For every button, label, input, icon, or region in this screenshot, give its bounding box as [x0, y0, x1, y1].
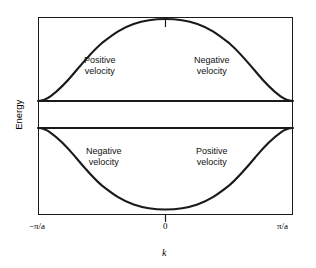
annotation-lower-right-line1: Positive [196, 146, 228, 157]
annotation-lower-right-line2: velocity [196, 157, 228, 168]
upper-band-curve [38, 19, 293, 101]
x-tick-label-negative-pi-over-a: −π/a [29, 222, 45, 231]
annotation-upper-right-line1: Negative [194, 55, 230, 66]
band-curves [38, 17, 293, 215]
lower-band-curve [38, 128, 293, 210]
x-tick-label-pi-over-a: π/a [277, 222, 288, 231]
annotation-upper-right: Negative velocity [194, 55, 230, 77]
annotation-lower-left-line1: Negative [86, 146, 122, 157]
annotation-upper-left: Positive velocity [84, 55, 116, 77]
annotation-lower-right: Positive velocity [196, 146, 228, 168]
annotation-lower-left-line2: velocity [86, 157, 122, 168]
x-axis-label: k [162, 248, 166, 258]
annotation-lower-left: Negative velocity [86, 146, 122, 168]
annotation-upper-left-line1: Positive [84, 55, 116, 66]
annotation-upper-right-line2: velocity [194, 66, 230, 77]
annotation-upper-left-line2: velocity [84, 66, 116, 77]
y-axis-label: Energy [14, 85, 24, 145]
x-tick-label-zero: 0 [163, 222, 168, 231]
band-structure-figure: Energy −π/a 0 π/a k Positive velocity Ne… [0, 0, 316, 268]
